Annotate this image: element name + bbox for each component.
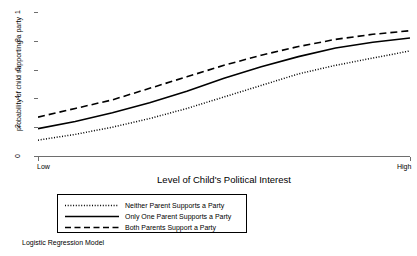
y-tick-label-text: .4	[14, 84, 22, 112]
y-tick-label-text: 0	[14, 142, 22, 170]
x-axis-title: Level of Child's Political Interest	[38, 174, 410, 185]
x-tick-label: Low	[37, 163, 50, 171]
y-tick-label: .8	[4, 37, 32, 45]
series-line-2	[38, 31, 410, 117]
y-tick-label: .4	[4, 94, 32, 102]
y-tick-label-text: 1	[14, 0, 22, 26]
y-tick-label: 1	[4, 8, 32, 16]
legend-label: Only One Parent Supports a Party	[125, 212, 231, 221]
legend-label: Both Parents Support a Party	[125, 223, 216, 232]
series-line-0	[38, 51, 410, 140]
gridline	[39, 156, 410, 157]
legend-item-2[interactable]: Both Parents Support a Party	[58, 221, 248, 234]
x-tick-label: High	[397, 163, 411, 171]
y-tick-label-text: .8	[14, 27, 22, 55]
plot-area	[38, 12, 410, 156]
legend-label: Neither Parent Supports a Party	[125, 201, 224, 210]
chart-legend: Neither Parent Supports a PartyOnly One …	[57, 194, 247, 233]
y-tick-label-text: .6	[14, 56, 22, 84]
x-tick-mark	[410, 157, 411, 161]
y-tick-label-text: .2	[14, 113, 22, 141]
series-line-1	[38, 38, 410, 129]
legend-key-dashed-icon	[63, 222, 121, 233]
y-tick-label: 0	[4, 152, 32, 160]
y-tick-label: .6	[4, 66, 32, 74]
series-lines	[38, 12, 410, 156]
y-tick-label: .2	[4, 123, 32, 131]
x-tick-mark	[38, 157, 39, 161]
footnote: Logistic Regression Model	[22, 238, 104, 247]
chart-figure: probability of child supporting a party …	[0, 0, 417, 256]
